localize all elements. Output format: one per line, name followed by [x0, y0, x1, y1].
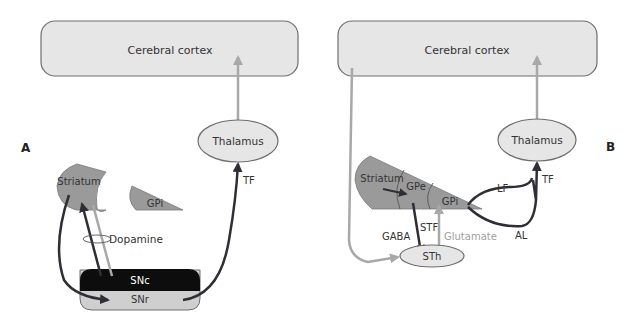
tf-label-a: TF: [242, 175, 255, 186]
snr-label-a: SNr: [131, 294, 150, 305]
al-label-b: AL: [515, 230, 528, 241]
snc-label-a: SNc: [130, 275, 149, 286]
cerebral-cortex-label-b: Cerebral cortex: [425, 44, 510, 57]
sth-label-b: STh: [423, 251, 442, 262]
panel-b: Cerebral cortex Thalamus B Striatum GPe …: [338, 21, 615, 267]
gpi-label-a: GPi: [147, 198, 163, 209]
tf-label-b: TF: [541, 174, 554, 185]
thalamus-label-b: Thalamus: [510, 134, 562, 146]
al-pathway-b: [468, 200, 536, 226]
gaba-label-b: GABA: [382, 231, 410, 242]
lf-label-b: LF: [497, 183, 509, 194]
tf-arrow-b: [533, 163, 537, 200]
nigrostriatal-dark-arrow-a: [82, 204, 101, 276]
basal-ganglia-diagram: Cerebral cortex Thalamus A Striatum GPi …: [0, 0, 634, 323]
glutamate-label-b: Glutamate: [444, 231, 497, 242]
gpe-label-b: GPe: [406, 181, 426, 192]
striatum-label-b: Striatum: [360, 173, 403, 184]
gpi-label-b: GPi: [442, 196, 458, 207]
dopamine-marker-icon: [83, 235, 111, 243]
panel-letter-b: B: [606, 140, 615, 154]
striatum-label-a: Striatum: [57, 176, 100, 187]
stf-label-b: STF: [420, 222, 438, 233]
panel-a: Cerebral cortex Thalamus A Striatum GPi …: [21, 21, 298, 310]
thalamus-label-a: Thalamus: [211, 135, 263, 147]
cerebral-cortex-label-a: Cerebral cortex: [128, 44, 213, 57]
panel-letter-a: A: [21, 141, 31, 155]
dopamine-label-a: Dopamine: [109, 233, 163, 245]
